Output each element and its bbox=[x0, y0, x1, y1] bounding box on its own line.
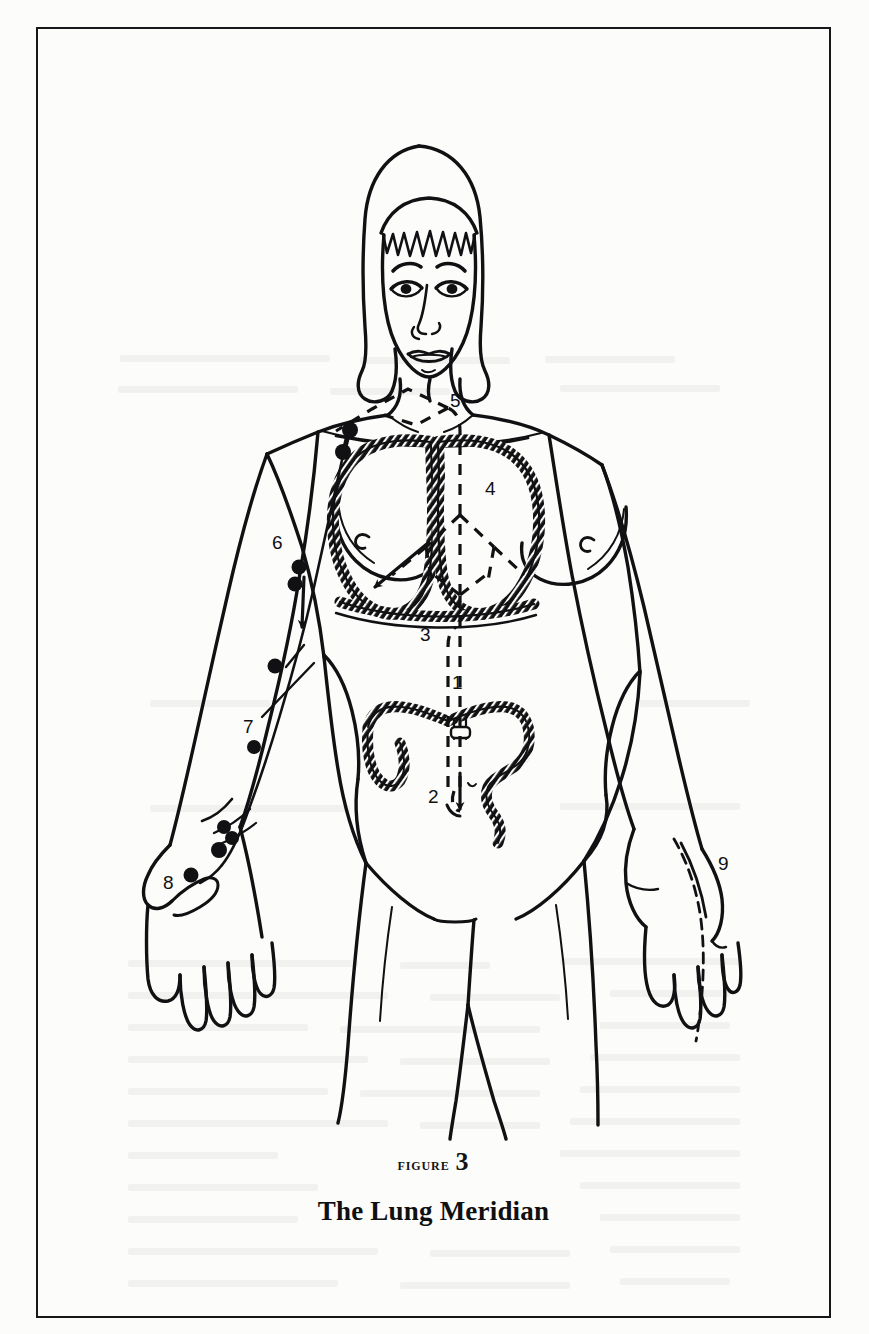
figure-caption-block: Figure3 The Lung Meridian bbox=[36, 1148, 831, 1227]
figure-title: The Lung Meridian bbox=[36, 1196, 831, 1227]
figure-number-line: Figure3 bbox=[36, 1148, 831, 1177]
figure-word: Figure bbox=[398, 1155, 450, 1174]
figure-number-value: 3 bbox=[456, 1147, 470, 1176]
figure-border-frame bbox=[36, 27, 831, 1318]
